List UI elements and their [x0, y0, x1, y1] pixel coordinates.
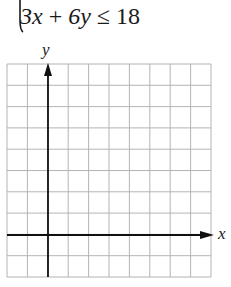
x-axis-arrow-icon	[200, 231, 214, 239]
x-axis-label: x	[218, 224, 226, 244]
grid-lines	[7, 64, 211, 277]
y-axis-arrow-icon	[44, 63, 52, 76]
y-axis-label: y	[42, 40, 50, 60]
coordinate-grid	[0, 0, 231, 287]
